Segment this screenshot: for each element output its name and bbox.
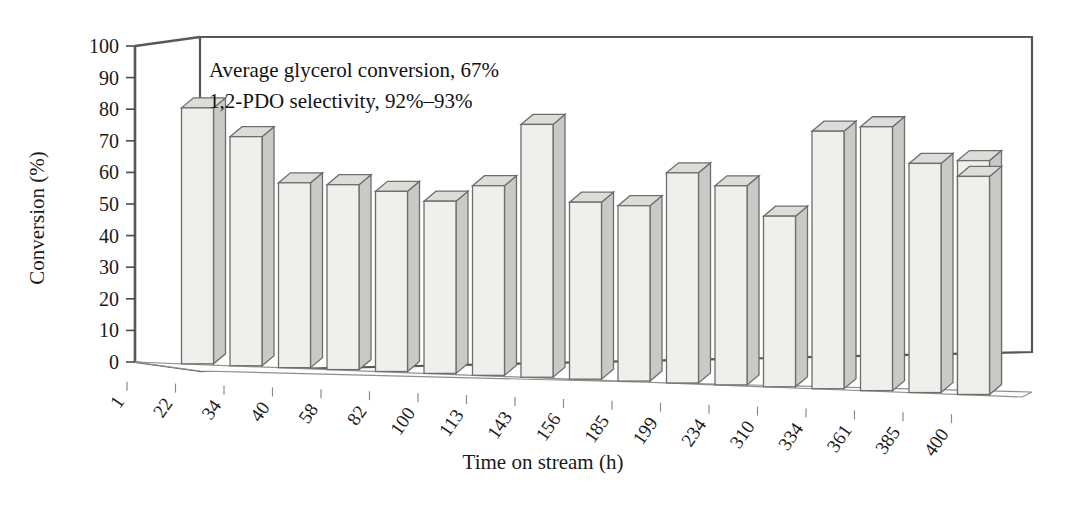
bar-front-face (376, 191, 408, 371)
x-tick-label: 310 (725, 417, 759, 452)
bar-front-face (667, 173, 699, 383)
bar-side-face (699, 163, 711, 383)
bar-chart-3d: 0102030405060708090100 12234405882100113… (0, 0, 1086, 512)
x-tick-label: 143 (483, 407, 517, 442)
bar-front-face (618, 206, 650, 381)
bar-front-face (861, 127, 893, 391)
x-tick-label: 34 (197, 395, 225, 423)
bar-side-face (359, 175, 371, 370)
x-tick-label: 22 (149, 394, 177, 422)
bar-column (376, 181, 420, 371)
x-tick-label: 185 (580, 411, 614, 446)
bar-front-face (909, 163, 941, 392)
x-tick-label: 1 (106, 392, 129, 412)
bar-side-face (650, 196, 662, 381)
bar-column (327, 175, 371, 370)
y-tick-label: 30 (99, 256, 119, 278)
bar-front-face (279, 183, 311, 368)
top-left-connector (135, 37, 200, 46)
bar-column (667, 163, 711, 383)
bar-side-face (553, 114, 565, 377)
bar-front-face (812, 131, 844, 389)
annotation-line-2: 1,2-PDO selectivity, 92%–93% (209, 89, 472, 113)
x-tick-label: 334 (774, 418, 808, 454)
bar-front-face (230, 137, 262, 366)
bar-side-face (941, 153, 953, 392)
bar-front-face (764, 216, 796, 387)
y-axis: 0102030405060708090100 (89, 35, 135, 373)
bar-front-face (715, 186, 747, 385)
bar-side-face (214, 98, 226, 364)
bar-side-face (262, 127, 274, 366)
x-axis-title: Time on stream (h) (463, 450, 624, 474)
chart-figure: 0102030405060708090100 12234405882100113… (0, 0, 1086, 512)
bar-column (424, 191, 468, 373)
x-tick-label: 385 (871, 422, 905, 457)
bar-column (473, 176, 517, 376)
y-tick-label: 50 (99, 193, 119, 215)
bar-side-face (796, 206, 808, 387)
y-tick-label: 10 (99, 319, 119, 341)
x-tick-label: 234 (677, 414, 711, 450)
x-tick-label: 400 (919, 424, 953, 459)
x-tick-label: 361 (822, 421, 856, 456)
bar-front-face (424, 201, 456, 373)
bar-front-face (521, 124, 553, 377)
bar-side-face (505, 176, 517, 376)
bar-side-face (893, 117, 905, 391)
x-tick-label: 156 (531, 409, 565, 444)
y-tick-label: 60 (99, 161, 119, 183)
x-tick-label: 199 (628, 413, 662, 448)
y-tick-label: 40 (99, 225, 119, 247)
annotation-line-1: Average glycerol conversion, 67% (209, 58, 499, 82)
bar-column (861, 117, 905, 391)
bar-column (279, 173, 323, 368)
y-tick-label: 20 (99, 288, 119, 310)
x-tick-label: 58 (294, 400, 322, 428)
x-tick-label: 82 (343, 401, 371, 429)
bar-front-face (327, 185, 359, 370)
bar-front-face (958, 176, 990, 394)
bar-side-face (990, 166, 1002, 394)
bar-front-face (473, 186, 505, 376)
x-tick-label: 113 (435, 405, 468, 440)
bar-front-face (182, 108, 214, 364)
bar-side-face (456, 191, 468, 373)
bar-column (230, 127, 274, 366)
bar-side-face (408, 181, 420, 371)
bar-column (521, 114, 565, 377)
bar-column (958, 166, 1002, 394)
bar-column (618, 196, 662, 381)
bar-side-face (311, 173, 323, 368)
x-tick-label: 100 (386, 403, 420, 438)
bar-side-face (747, 176, 759, 385)
bar-column (715, 176, 759, 385)
bars-layer (182, 98, 1002, 395)
bar-front-face (570, 202, 602, 379)
x-tick-label: 40 (246, 398, 274, 426)
annotation-block: Average glycerol conversion, 67% 1,2-PDO… (209, 58, 499, 113)
bar-column (764, 206, 808, 387)
bar-side-face (602, 192, 614, 379)
bar-side-face (844, 121, 856, 389)
bar-column (812, 121, 856, 389)
y-axis-title: Conversion (%) (25, 151, 49, 285)
bar-column (182, 98, 226, 364)
back-wall (200, 37, 1032, 371)
y-tick-label: 70 (99, 130, 119, 152)
y-tick-label: 0 (109, 351, 119, 373)
bar-column (909, 153, 953, 392)
y-tick-label: 80 (99, 98, 119, 120)
y-tick-label: 90 (99, 67, 119, 89)
y-tick-label: 100 (89, 35, 119, 57)
bar-column (570, 192, 614, 379)
